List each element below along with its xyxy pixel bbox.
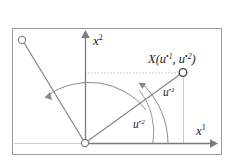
origin-marker <box>81 139 88 146</box>
upper-left-endpoint-marker <box>18 36 25 43</box>
figure-frame <box>13 29 222 155</box>
coordinate-diagram: x2 x1 X(u•1, u•2) u•1 u•2 <box>0 0 236 162</box>
point-x-marker <box>179 69 187 77</box>
figure-container: x2 x1 X(u•1, u•2) u•1 u•2 <box>0 0 236 162</box>
